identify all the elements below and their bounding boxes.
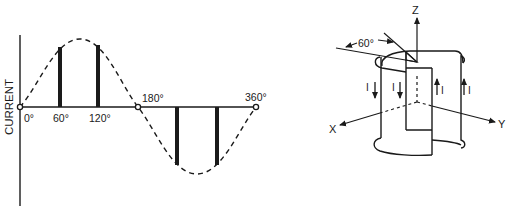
label-120-degrees: 120° <box>89 112 111 124</box>
angle-reference-line <box>336 48 417 62</box>
x-axis <box>340 113 380 125</box>
y-axis-label: Y <box>498 118 506 130</box>
y-axis-hidden <box>417 102 432 106</box>
label-180-degrees: 180° <box>142 92 164 104</box>
sine-wave-panel: CURRENT 0° 60° 120° 180° 360° <box>3 35 267 206</box>
current-label-1: I <box>366 82 369 93</box>
coil-bottom-rim <box>374 138 461 155</box>
coil-panel: Z X Y 60° I <box>329 4 506 155</box>
marker-180-degrees <box>135 104 140 109</box>
diagram-canvas: CURRENT 0° 60° 120° 180° 360° Z X <box>0 0 508 209</box>
x-axis-hidden <box>380 102 417 113</box>
angle-dimension-arrow-right <box>378 40 393 42</box>
current-arrow-1: I <box>366 82 375 98</box>
z-axis-label: Z <box>412 4 419 16</box>
angle-dimension-arrow-left <box>346 43 357 47</box>
coil-inner-return <box>406 68 432 130</box>
current-arrow-3: I <box>437 79 444 96</box>
y-axis-label: CURRENT <box>3 79 15 135</box>
current-label-4: I <box>468 85 471 96</box>
current-arrow-4: I <box>464 79 471 96</box>
coil-right-outer-side <box>461 56 465 148</box>
marker-360-degrees <box>253 104 258 109</box>
marker-0-degrees <box>17 104 22 109</box>
current-label-3: I <box>441 85 444 96</box>
angle-wedge <box>406 52 417 62</box>
label-360-degrees: 360° <box>245 91 267 103</box>
label-0-degrees: 0° <box>24 112 34 124</box>
label-60-degrees: 60° <box>53 112 69 124</box>
y-axis <box>432 106 495 122</box>
angle-label: 60° <box>358 37 374 49</box>
current-label-2: I <box>392 82 395 93</box>
current-arrow-2: I <box>392 82 400 98</box>
x-axis-label: X <box>329 123 337 135</box>
